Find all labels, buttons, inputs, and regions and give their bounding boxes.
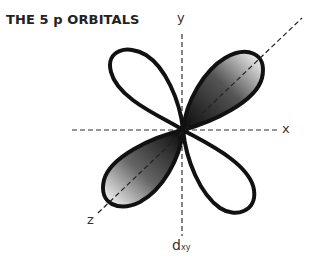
orbital-diagram — [0, 0, 313, 265]
lobe-lower-right — [183, 130, 254, 213]
x-axis-label: x — [282, 121, 290, 136]
lobe-upper-right — [183, 52, 263, 130]
lobe-upper-left — [110, 50, 183, 130]
z-axis-label: z — [87, 212, 94, 227]
lobe-lower-left — [103, 130, 183, 206]
orbital-label-subscript: xy — [181, 243, 190, 252]
y-axis-label: y — [177, 10, 185, 25]
orbital-label-main: d — [172, 237, 181, 253]
orbital-label: dxy — [172, 237, 190, 253]
